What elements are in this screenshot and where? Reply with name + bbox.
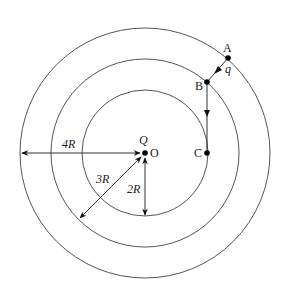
label-2r: 2R [127, 182, 141, 196]
center-point-o [142, 150, 148, 156]
label-o: O [150, 146, 159, 160]
label-q-charge: Q [139, 133, 148, 147]
label-4r: 4R [62, 137, 76, 151]
arrowhead-ab-icon [214, 66, 222, 74]
label-a: A [223, 41, 232, 55]
arrowhead-bc-icon [204, 110, 210, 117]
label-b: B [195, 79, 203, 93]
label-q-test: q [225, 62, 231, 76]
diagram-canvas: 4R 3R 2R O Q q A B C [0, 0, 284, 300]
point-b [204, 79, 210, 85]
point-a [225, 55, 231, 61]
label-3r: 3R [95, 172, 110, 186]
label-c: C [194, 146, 202, 160]
point-c [204, 150, 210, 156]
